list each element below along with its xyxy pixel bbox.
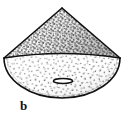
figure-caption-label: b: [20, 97, 38, 115]
figure-panel: b: [0, 0, 127, 118]
base-aperture-slit: [54, 79, 73, 84]
